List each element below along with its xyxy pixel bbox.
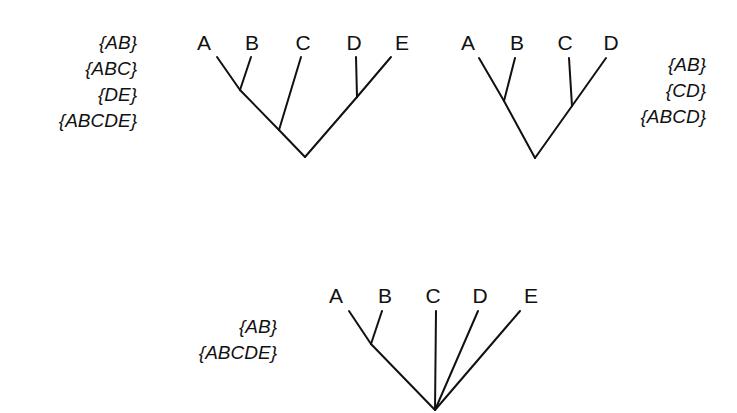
- tree-2-edges: [479, 58, 606, 158]
- tree-2-clusters: {AB} {CD} {ABCD}: [641, 54, 707, 127]
- tree-3: {AB} {ABCDE} A B C D E: [199, 284, 538, 410]
- leaf-label-c: C: [557, 31, 572, 54]
- edge: [435, 311, 478, 410]
- leaf-label-a: A: [329, 284, 343, 307]
- cluster-label: {ABC}: [85, 58, 137, 79]
- tree-3-edges: [349, 311, 520, 410]
- leaf-label-b: B: [378, 284, 392, 307]
- edge: [240, 57, 251, 90]
- leaf-label-c: C: [295, 31, 310, 54]
- edge: [240, 90, 279, 130]
- cluster-label: {ABCDE}: [199, 342, 278, 363]
- edge: [572, 58, 606, 106]
- cluster-label: {ABCDE}: [59, 110, 138, 131]
- edge: [435, 311, 436, 410]
- edge: [435, 311, 520, 410]
- tree-diagrams: {AB} {ABC} {DE} {ABCDE} A B C D E A B: [0, 0, 737, 413]
- edge: [371, 311, 382, 344]
- cluster-label: {DE}: [98, 84, 138, 105]
- edge: [535, 106, 572, 158]
- edge: [504, 58, 515, 101]
- leaf-label-b: B: [510, 31, 524, 54]
- edge: [279, 57, 301, 130]
- tree-3-leaf-labels: A B C D E: [329, 284, 538, 307]
- leaf-label-a: A: [461, 31, 475, 54]
- edge: [349, 311, 371, 344]
- edge: [356, 57, 357, 97]
- edge: [371, 344, 435, 410]
- leaf-label-d: D: [346, 31, 361, 54]
- tree-2-leaf-labels: A B C D: [461, 31, 619, 54]
- leaf-label-c: C: [425, 284, 440, 307]
- tree-1-clusters: {AB} {ABC} {DE} {ABCDE}: [59, 32, 138, 131]
- cluster-label: {AB}: [668, 54, 707, 75]
- tree-1-edges: [217, 57, 391, 157]
- edge: [479, 58, 504, 101]
- leaf-label-d: D: [603, 31, 618, 54]
- tree-2: A B C D {AB} {CD} {ABCD}: [461, 31, 707, 158]
- leaf-label-e: E: [524, 284, 538, 307]
- leaf-label-d: D: [472, 284, 487, 307]
- edge: [217, 57, 240, 90]
- edge: [569, 58, 572, 106]
- edge: [504, 101, 535, 158]
- cluster-label: {AB}: [99, 32, 138, 53]
- edge: [305, 97, 357, 157]
- tree-1: {AB} {ABC} {DE} {ABCDE} A B C D E: [59, 31, 409, 157]
- leaf-label-a: A: [197, 31, 211, 54]
- cluster-label: {AB}: [239, 316, 278, 337]
- cluster-label: {CD}: [666, 80, 707, 101]
- leaf-label-b: B: [245, 31, 259, 54]
- edge: [279, 130, 305, 157]
- edge: [357, 57, 391, 97]
- cluster-label: {ABCD}: [641, 106, 707, 127]
- tree-3-clusters: {AB} {ABCDE}: [199, 316, 278, 363]
- tree-1-leaf-labels: A B C D E: [197, 31, 409, 54]
- leaf-label-e: E: [395, 31, 409, 54]
